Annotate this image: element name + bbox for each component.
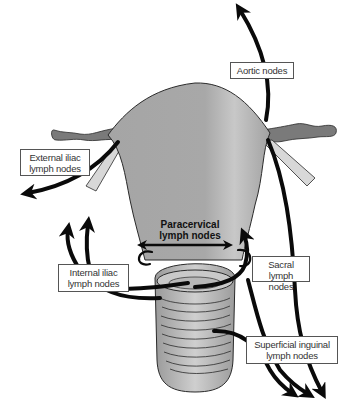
internal-iliac-text-line2: lymph nodes bbox=[63, 278, 124, 289]
external-iliac-text-line1: External iliac bbox=[25, 152, 85, 163]
internal-iliac-text-line1: Internal iliac bbox=[63, 267, 124, 278]
sacral-text-line2: nodes bbox=[257, 281, 305, 292]
internal-iliac-lymph-nodes-label: Internal iliac lymph nodes bbox=[58, 264, 129, 292]
sacral-lymph-nodes-label: Sacral lymph nodes bbox=[252, 256, 310, 282]
superficial-inguinal-text-line1: Superficial inguinal bbox=[251, 339, 333, 350]
aortic-nodes-label: Aortic nodes bbox=[230, 62, 294, 79]
sacral-text-line1: Sacral lymph bbox=[257, 259, 305, 281]
paracervical-text-line2: lymph nodes bbox=[152, 230, 228, 241]
paracervical-lymph-nodes-label: Paracervical lymph nodes bbox=[152, 219, 228, 241]
external-iliac-lymph-nodes-label: External iliac lymph nodes bbox=[20, 149, 90, 176]
external-iliac-text-line2: lymph nodes bbox=[25, 163, 85, 174]
aortic-nodes-text: Aortic nodes bbox=[235, 65, 289, 76]
paracervical-text-line1: Paracervical bbox=[152, 219, 228, 230]
superficial-inguinal-text-line2: lymph nodes bbox=[251, 350, 333, 361]
superficial-inguinal-lymph-nodes-label: Superficial inguinal lymph nodes bbox=[246, 336, 338, 364]
right-fallopian-tube bbox=[262, 124, 336, 142]
